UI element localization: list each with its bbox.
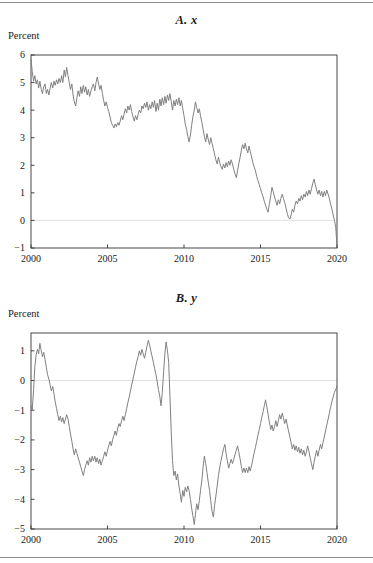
- panel-b-y-axis-unit-label: Percent: [8, 308, 40, 320]
- y-axis-tick-label: −3: [14, 464, 25, 475]
- y-axis-tick-label: −4: [14, 494, 25, 505]
- panel-a-svg: −1012345620002005201020152020: [0, 42, 373, 270]
- x-axis-tick-label: 2000: [21, 253, 41, 264]
- x-axis-tick-label: 2000: [21, 534, 41, 545]
- x-axis-tick-label: 2005: [98, 534, 118, 545]
- x-axis-tick-label: 2015: [251, 253, 271, 264]
- y-axis-tick-label: −5: [14, 523, 25, 534]
- data-series-line-y: [31, 340, 337, 524]
- x-axis-tick-label: 2020: [327, 534, 347, 545]
- x-axis-tick-label: 2010: [174, 534, 194, 545]
- panel-b-svg: −5−4−3−2−10120002005201020152020: [0, 320, 373, 552]
- data-series-line-x: [31, 59, 337, 246]
- y-axis-tick-label: 1: [20, 187, 25, 198]
- chart-panel-b: B. y Percent −5−4−3−2−101200020052010201…: [0, 286, 373, 556]
- y-axis-tick-label: 0: [20, 375, 25, 386]
- y-axis-tick-label: 1: [20, 345, 25, 356]
- plot-frame: [31, 55, 337, 248]
- panel-b-plot-area: −5−4−3−2−10120002005201020152020: [0, 320, 373, 552]
- panel-a-plot-area: −1012345620002005201020152020: [0, 42, 373, 270]
- y-axis-tick-label: 0: [20, 215, 25, 226]
- x-axis-tick-label: 2015: [251, 534, 271, 545]
- chart-panel-a: A. x Percent −10123456200020052010201520…: [0, 8, 373, 276]
- bottom-divider-rule: [0, 557, 373, 558]
- y-axis-tick-label: 3: [20, 132, 25, 143]
- y-axis-tick-label: 4: [20, 105, 25, 116]
- top-divider-rule: [0, 2, 373, 3]
- y-axis-tick-label: −1: [14, 242, 25, 253]
- plot-frame: [31, 333, 337, 529]
- y-axis-tick-label: −2: [14, 434, 25, 445]
- x-axis-tick-label: 2020: [327, 253, 347, 264]
- y-axis-tick-label: 6: [20, 49, 25, 60]
- y-axis-tick-label: −1: [14, 405, 25, 416]
- y-axis-tick-label: 2: [20, 160, 25, 171]
- panel-a-title: A. x: [0, 8, 373, 28]
- panel-b-title: B. y: [0, 286, 373, 306]
- x-axis-tick-label: 2005: [98, 253, 118, 264]
- panel-a-y-axis-unit-label: Percent: [8, 30, 40, 42]
- y-axis-tick-label: 5: [20, 77, 25, 88]
- x-axis-tick-label: 2010: [174, 253, 194, 264]
